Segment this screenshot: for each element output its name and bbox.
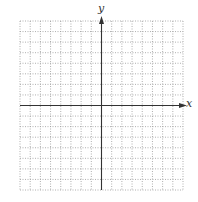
y-axis-label: y [98, 2, 104, 15]
y-axis-arrow-icon [99, 16, 104, 24]
coordinate-grid [0, 0, 198, 202]
x-axis-label: x [186, 97, 192, 110]
